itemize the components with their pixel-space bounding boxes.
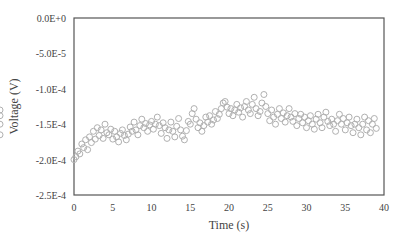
- x-axis-ticks: 0510152025303540: [72, 202, 390, 213]
- x-tick-label: 15: [185, 202, 195, 213]
- x-tick-label: 5: [110, 202, 115, 213]
- y-axis-ticks: 0.0E+0-5.0E-5-1.0E-4-1.5E-4-2.0E-4-2.5E-…: [36, 13, 66, 201]
- y-tick-label: -1.5E-4: [36, 119, 66, 130]
- y-tick-label: -1.0E-4: [36, 84, 66, 95]
- data-point: [0, 121, 3, 127]
- data-point: [0, 132, 3, 138]
- voltage-time-chart: 0.0E+0-5.0E-5-1.0E-4-1.5E-4-2.0E-4-2.5E-…: [0, 0, 402, 247]
- y-tick-label: 0.0E+0: [37, 13, 66, 24]
- x-tick-label: 10: [147, 202, 157, 213]
- x-tick-label: 30: [302, 202, 312, 213]
- data-point: [0, 107, 3, 113]
- x-tick-label: 20: [224, 202, 234, 213]
- y-tick-label: -5.0E-5: [36, 48, 66, 59]
- x-tick-label: 40: [379, 202, 389, 213]
- y-axis-label: Voltage (V): [7, 78, 21, 134]
- x-tick-label: 25: [263, 202, 273, 213]
- x-tick-label: 35: [340, 202, 350, 213]
- x-axis-label: Time (s): [209, 218, 250, 232]
- chart-canvas: 0.0E+0-5.0E-5-1.0E-4-1.5E-4-2.0E-4-2.5E-…: [0, 0, 402, 247]
- y-tick-label: -2.5E-4: [36, 190, 66, 201]
- data-point: [0, 113, 3, 119]
- y-tick-label: -2.0E-4: [36, 155, 66, 166]
- x-tick-label: 0: [72, 202, 77, 213]
